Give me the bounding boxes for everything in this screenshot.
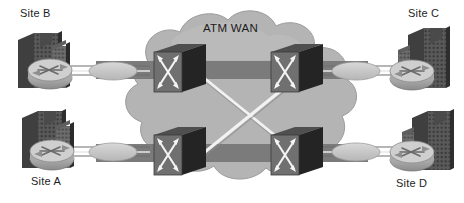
switch-side-face bbox=[182, 44, 206, 92]
atm-wan-topology-diagram: ATM WAN Site B Site C Site A Site D bbox=[0, 0, 464, 203]
cloud-label-atm-wan: ATM WAN bbox=[203, 22, 258, 34]
switch-side-face bbox=[299, 44, 323, 92]
site-label-site-b: Site B bbox=[20, 7, 51, 19]
site-b-node[interactable] bbox=[18, 31, 72, 89]
site-label-site-d: Site D bbox=[396, 177, 427, 189]
atm-switch-bottom-left[interactable] bbox=[154, 127, 206, 175]
circuit-marker-a bbox=[89, 143, 137, 161]
site-c-node[interactable] bbox=[390, 26, 450, 90]
site-b-router-icon[interactable] bbox=[28, 59, 72, 89]
atm-switch-top-right[interactable] bbox=[271, 44, 323, 92]
site-d-router-icon[interactable] bbox=[390, 141, 434, 171]
atm-switch-top-left[interactable] bbox=[154, 44, 206, 92]
switch-side-face bbox=[182, 127, 206, 175]
circuit-marker-d bbox=[332, 143, 380, 161]
site-c-router-icon[interactable] bbox=[390, 60, 434, 90]
site-a-router-icon[interactable] bbox=[30, 140, 74, 170]
site-d-node[interactable] bbox=[390, 109, 454, 171]
site-label-site-a: Site A bbox=[31, 175, 61, 187]
atm-switch-bottom-right[interactable] bbox=[271, 127, 323, 175]
site-label-site-c: Site C bbox=[408, 7, 439, 19]
circuit-marker-c bbox=[332, 62, 380, 80]
circuit-marker-b bbox=[89, 62, 137, 80]
site-a-node[interactable] bbox=[22, 109, 74, 170]
switch-side-face bbox=[299, 127, 323, 175]
